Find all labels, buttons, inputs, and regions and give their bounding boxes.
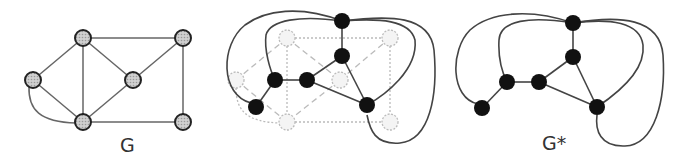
gstar-node-right-lower bbox=[589, 99, 605, 115]
dual-node-right-lower bbox=[359, 97, 375, 113]
node-g-left bbox=[25, 72, 41, 88]
dual-graph-label: G* bbox=[542, 132, 566, 154]
graph-g bbox=[29, 38, 183, 123]
node-g-center bbox=[125, 72, 141, 88]
dual-node-left-inner bbox=[267, 72, 283, 88]
dual-edges-middle bbox=[227, 11, 435, 143]
graph-g-label: G bbox=[120, 134, 135, 156]
node-g-top-right bbox=[175, 30, 191, 46]
gstar-node-center-inner bbox=[531, 74, 547, 90]
graph-g-nodes bbox=[25, 30, 191, 130]
gstar-node-outer bbox=[565, 15, 581, 31]
gstar-node-left-inner bbox=[499, 74, 515, 90]
dual-graph-edges bbox=[456, 14, 664, 146]
dual-node-outer bbox=[334, 13, 350, 29]
dual-node-left-lower bbox=[248, 99, 264, 115]
dual-node-upper bbox=[334, 48, 350, 64]
node-g-bottom-right bbox=[175, 114, 191, 130]
node-g-top-left bbox=[75, 30, 91, 46]
dual-graph-nodes bbox=[474, 15, 605, 116]
gstar-node-left-lower bbox=[474, 100, 490, 116]
dual-node-center-inner bbox=[299, 72, 315, 88]
node-g-bottom-left bbox=[75, 114, 91, 130]
planar-dual-diagram bbox=[0, 0, 690, 166]
gstar-node-upper bbox=[565, 49, 581, 65]
